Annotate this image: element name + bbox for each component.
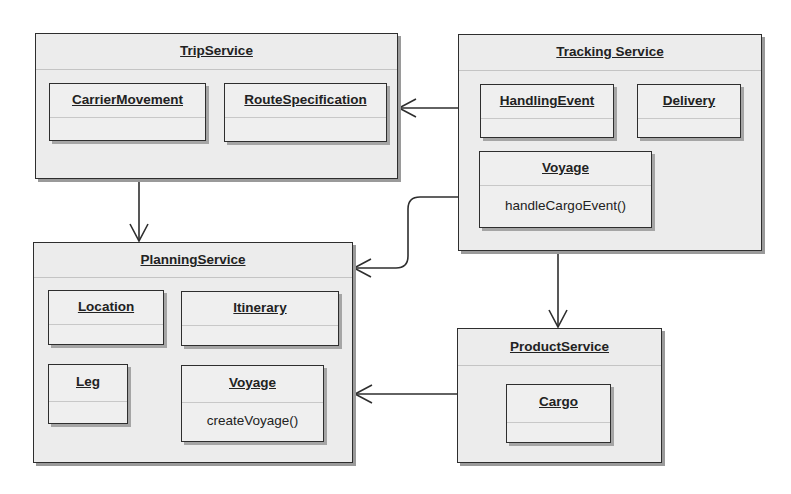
class-name-text: Cargo — [539, 394, 578, 409]
class-delivery[interactable]: Delivery — [637, 84, 741, 138]
package-title-text: Tracking Service — [556, 44, 663, 59]
class-name-text: RouteSpecification — [244, 92, 366, 107]
package-title: ProductService — [458, 329, 661, 366]
arrow-tracking-to-product — [549, 251, 567, 327]
class-name: Cargo — [507, 385, 610, 423]
class-name: RouteSpecification — [225, 84, 386, 118]
class-name: Location — [49, 291, 163, 325]
class-leg[interactable]: Leg — [48, 364, 128, 424]
class-operation: createVoyage() — [182, 403, 323, 439]
arrow-tracking-to-trip — [399, 99, 458, 117]
package-trip-service[interactable]: TripService CarrierMovement RouteSpecifi… — [35, 33, 398, 179]
class-name: Voyage — [480, 152, 651, 186]
class-voyage[interactable]: Voyage handleCargoEvent() — [479, 151, 652, 228]
package-title-text: PlanningService — [140, 252, 245, 267]
class-handling-event[interactable]: HandlingEvent — [480, 84, 614, 138]
class-name-text: Voyage — [542, 160, 589, 175]
class-itinerary[interactable]: Itinerary — [181, 291, 339, 346]
class-name: Leg — [49, 365, 127, 402]
class-name-text: Delivery — [663, 93, 716, 108]
package-title: PlanningService — [34, 243, 352, 278]
class-name: Delivery — [638, 85, 740, 119]
arrow-product-to-planning — [355, 385, 457, 403]
package-tracking-service[interactable]: Tracking Service HandlingEvent Delivery … — [458, 34, 762, 251]
package-title-text: ProductService — [510, 339, 609, 354]
class-name: Voyage — [182, 366, 323, 403]
class-route-specification[interactable]: RouteSpecification — [224, 83, 387, 142]
class-cargo[interactable]: Cargo — [506, 384, 611, 443]
class-name-text: Leg — [76, 374, 100, 389]
class-name: CarrierMovement — [50, 84, 205, 118]
package-title: Tracking Service — [459, 35, 761, 71]
class-operation: handleCargoEvent() — [480, 186, 651, 226]
class-carrier-movement[interactable]: CarrierMovement — [49, 83, 206, 141]
class-name: HandlingEvent — [481, 85, 613, 119]
class-name-text: HandlingEvent — [500, 93, 595, 108]
package-title-text: TripService — [180, 43, 253, 58]
arrow-trip-to-planning — [130, 178, 148, 241]
class-location[interactable]: Location — [48, 290, 164, 345]
class-name: Itinerary — [182, 292, 338, 326]
class-name-text: Voyage — [229, 375, 276, 390]
class-voyage[interactable]: Voyage createVoyage() — [181, 365, 324, 442]
class-name-text: Location — [78, 299, 134, 314]
package-product-service[interactable]: ProductService Cargo — [457, 328, 662, 463]
package-planning-service[interactable]: PlanningService Location Itinerary Leg V… — [33, 242, 353, 463]
package-title: TripService — [36, 34, 397, 70]
class-name-text: Itinerary — [233, 300, 286, 315]
arrow-tracking-to-planning — [354, 197, 458, 277]
class-name-text: CarrierMovement — [72, 92, 183, 107]
